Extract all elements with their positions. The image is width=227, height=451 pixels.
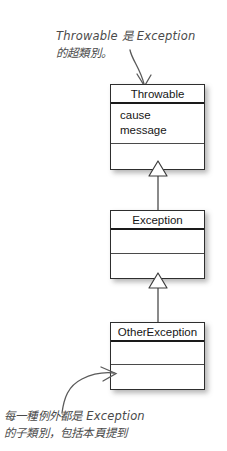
- uml-attribute: cause: [111, 108, 204, 123]
- uml-class-otherexception[interactable]: OtherException: [110, 322, 205, 390]
- uml-attributes-exception: [111, 230, 204, 254]
- annotation-throwable-superclass: Throwable 是 Exception 的超類別。: [56, 28, 224, 61]
- uml-class-throwable[interactable]: Throwable cause message: [110, 84, 205, 170]
- uml-attribute: message: [111, 123, 204, 138]
- diagram-canvas: Throwable 是 Exception 的超類別。 Throwable ca…: [0, 0, 227, 451]
- annotation-every-exception-subclass: 每一種例外都是 Exception 的子類別，包括本頁提到: [4, 408, 194, 441]
- uml-operations-exception: [111, 254, 204, 278]
- uml-class-name-throwable: Throwable: [111, 85, 204, 104]
- uml-attributes-throwable: cause message: [111, 104, 204, 144]
- uml-operations-otherexception: [111, 365, 204, 389]
- uml-class-name-exception: Exception: [111, 211, 204, 230]
- uml-class-name-otherexception: OtherException: [111, 323, 204, 342]
- uml-operations-throwable: [111, 144, 204, 169]
- generalization-arrow-otherexception-to-exception: [140, 272, 176, 326]
- uml-class-exception[interactable]: Exception: [110, 210, 205, 279]
- uml-attributes-otherexception: [111, 342, 204, 365]
